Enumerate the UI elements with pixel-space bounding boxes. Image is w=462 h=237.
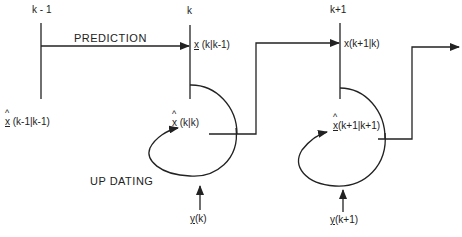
prediction-k-label: x (k|k-1) (194, 40, 230, 50)
update-k-label: x (k|k) (172, 118, 199, 128)
measurement-k1-label: y(k+1) (330, 215, 358, 225)
time-label-k-plus-1: k+1 (330, 5, 346, 15)
prediction-k-var: x (194, 39, 199, 50)
prediction-label: PREDICTION (74, 33, 147, 44)
update-loop-k (149, 128, 236, 176)
measurement-k-args: (k) (195, 213, 207, 224)
measurement-k-label: y(k) (190, 214, 207, 224)
kalman-cycle-diagram (0, 0, 462, 237)
update-k1-var: x (333, 121, 338, 131)
time-label-k: k (187, 6, 192, 16)
update-k1-label: x(k+1|k+1) (333, 121, 380, 131)
measurement-k1-args: (k+1) (335, 214, 358, 225)
update-k1-args: (k+1|k+1) (338, 120, 380, 131)
prediction-path-k-to-k1 (209, 43, 339, 134)
update-loop-k1 (299, 132, 386, 186)
updating-label: UP DATING (90, 176, 153, 187)
time-label-k-minus-1: k - 1 (32, 5, 51, 15)
update-k-var: x (172, 118, 177, 128)
prior-estimate-label: x (k-1|k-1) (5, 117, 50, 127)
prediction-k1-args: (k+1|k) (349, 38, 380, 49)
prediction-k-args: (k|k-1) (202, 39, 230, 50)
prior-estimate-var: x (5, 117, 10, 127)
update-k-args: (k|k) (180, 117, 199, 128)
update-arc-k1 (340, 88, 385, 139)
prediction-k1-label: x(k+1|k) (344, 39, 380, 49)
prediction-path-k1-out (378, 47, 459, 139)
prior-estimate-args: (k-1|k-1) (13, 116, 50, 127)
